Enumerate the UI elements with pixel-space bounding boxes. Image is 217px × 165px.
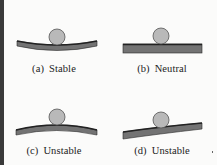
ball-icon [153,112,169,128]
panel-unstable-convex: (c)Unstable [0,82,108,164]
ball-icon [153,28,169,44]
caption-d: (d)Unstable [108,145,216,156]
panel-caption: Neutral [155,63,187,74]
panel-label: (b) [137,63,150,74]
caption-b: (b)Neutral [108,63,216,74]
panel-unstable-inclined: (d)Unstable [108,82,216,164]
panel-neutral: (b)Neutral [108,0,216,82]
panel-stable: (a)Stable [0,0,108,82]
caption-a: (a)Stable [0,63,108,74]
panel-caption: Stable [49,63,76,74]
stray-mark [212,151,213,153]
panel-label: (d) [134,145,147,156]
panel-label: (c) [26,145,38,156]
panel-caption: Unstable [43,145,81,156]
ball-icon [49,29,65,45]
panel-caption: Unstable [152,145,190,156]
ball-icon [49,109,65,125]
panel-label: (a) [32,63,44,74]
caption-c: (c)Unstable [0,145,108,156]
